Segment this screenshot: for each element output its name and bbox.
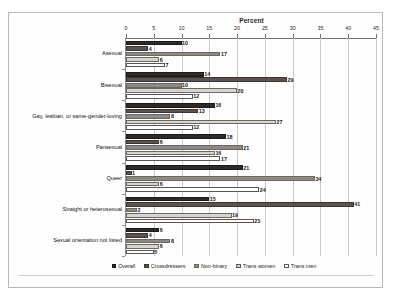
bar: 7 — [126, 63, 165, 68]
bar-value-label: 34 — [315, 176, 321, 182]
legend-item-overall[interactable]: Overall — [112, 263, 136, 269]
bar-value-label: 10 — [182, 40, 188, 46]
legend-item-trans-men[interactable]: Trans men — [284, 263, 316, 269]
bar-value-label: 41 — [354, 201, 360, 207]
bar-value-label: 2 — [138, 207, 141, 213]
legend-label: Overall — [118, 263, 135, 269]
bar-group: Bisexual1429102012 — [125, 69, 376, 100]
bar: 8 — [126, 239, 170, 244]
bar: 13 — [126, 109, 198, 114]
bar-value-label: 6 — [160, 243, 163, 249]
bar-group: Straight or heterosexual154121923 — [125, 194, 376, 225]
bar-value-label: 20 — [238, 88, 244, 94]
bar: 10 — [126, 83, 182, 88]
x-tick-label: 10 — [179, 25, 185, 31]
legend-label: Trans men — [291, 263, 317, 269]
bar: 34 — [126, 176, 315, 181]
bar: 8 — [126, 114, 170, 119]
category-label: Bisexual — [10, 82, 122, 88]
bar: 24 — [126, 187, 259, 192]
bar: 27 — [126, 120, 276, 125]
bar-value-label: 24 — [260, 187, 266, 193]
legend-item-non-binary[interactable]: Non-binary — [194, 263, 227, 269]
bar-value-label: 17 — [221, 51, 227, 57]
plot-area: 051015202530354045 Asexual1041767Bisexua… — [125, 38, 376, 256]
x-tick-label: 45 — [373, 25, 379, 31]
bar: 21 — [126, 145, 243, 150]
bar-value-label: 1 — [132, 170, 135, 176]
x-tick-label: 40 — [345, 25, 351, 31]
bar: 15 — [126, 197, 209, 202]
bar: 17 — [126, 52, 220, 57]
chart-container: Percent 051015202530354045 Asexual104176… — [8, 12, 383, 288]
bar-value-label: 12 — [193, 93, 199, 99]
bar: 12 — [126, 125, 193, 130]
x-tick-label: 30 — [290, 25, 296, 31]
legend-swatch-icon — [284, 264, 289, 269]
legend-label: Non-binary — [201, 263, 227, 269]
chart-legend: OverallCrossdressersNon-binaryTrans wome… — [69, 263, 359, 269]
bar: 2 — [126, 208, 137, 213]
bar: 1 — [126, 171, 132, 176]
bar-group: Asexual1041767 — [125, 38, 376, 69]
bar-group: Sexual orientation not listed64865 — [125, 225, 376, 256]
category-label: Gay, lesbian, or same-gender-loving — [10, 113, 122, 119]
bar: 18 — [126, 134, 226, 139]
category-tick — [122, 256, 125, 257]
bar-value-label: 18 — [227, 134, 233, 140]
category-label: Asexual — [10, 50, 122, 56]
bar-group: Queer21134624 — [125, 163, 376, 194]
bar: 5 — [126, 250, 154, 255]
bar-value-label: 6 — [160, 139, 163, 145]
bar: 6 — [126, 182, 159, 187]
legend-swatch-icon — [194, 264, 199, 269]
bar-value-label: 4 — [149, 46, 152, 52]
bar: 12 — [126, 94, 193, 99]
bar-value-label: 19 — [232, 212, 238, 218]
category-label: Pansexual — [10, 144, 122, 150]
bar-value-label: 21 — [243, 165, 249, 171]
chart-title: Percent — [129, 17, 374, 24]
bar-value-label: 8 — [171, 238, 174, 244]
bar: 10 — [126, 41, 182, 46]
bar: 41 — [126, 202, 354, 207]
x-tick-label: 0 — [125, 25, 128, 31]
x-tick-label: 25 — [262, 25, 268, 31]
category-label: Straight or heterosexual — [10, 206, 122, 212]
bar-value-label: 5 — [154, 249, 157, 255]
bar: 6 — [126, 140, 159, 145]
bar-value-label: 6 — [160, 57, 163, 63]
bar: 21 — [126, 165, 243, 170]
bar-group: Pansexual186211617 — [125, 131, 376, 162]
legend-label: Crossdressers — [151, 263, 186, 269]
bar: 6 — [126, 57, 159, 62]
bar: 29 — [126, 77, 287, 82]
bar: 16 — [126, 151, 215, 156]
bar-value-label: 27 — [277, 119, 283, 125]
bar-value-label: 17 — [221, 156, 227, 162]
x-tick-label: 35 — [317, 25, 323, 31]
bar-value-label: 15 — [210, 196, 216, 202]
bar: 6 — [126, 228, 159, 233]
legend-item-trans-women[interactable]: Trans women — [236, 263, 275, 269]
legend-item-crossdressers[interactable]: Crossdressers — [144, 263, 185, 269]
bar-group: Gay, lesbian, or same-gender-loving16138… — [125, 100, 376, 131]
category-label: Queer — [10, 175, 122, 181]
bar-value-label: 21 — [243, 145, 249, 151]
bar: 19 — [126, 213, 232, 218]
legend-divider — [19, 275, 374, 276]
bar-value-label: 6 — [160, 181, 163, 187]
bar: 4 — [126, 46, 148, 51]
bar-value-label: 13 — [199, 108, 205, 114]
legend-swatch-icon — [112, 264, 117, 269]
x-tick-label: 15 — [206, 25, 212, 31]
bar-value-label: 23 — [254, 218, 260, 224]
bar-value-label: 14 — [204, 71, 210, 77]
bar-value-label: 6 — [160, 227, 163, 233]
bar-value-label: 4 — [149, 232, 152, 238]
legend-label: Trans women — [243, 263, 275, 269]
category-label: Sexual orientation not listed — [10, 237, 122, 243]
bar-value-label: 10 — [182, 82, 188, 88]
legend-swatch-icon — [236, 264, 241, 269]
bar-value-label: 12 — [193, 124, 199, 130]
